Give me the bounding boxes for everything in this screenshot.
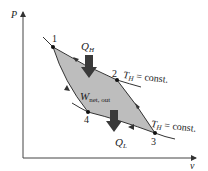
x-axis-label: v <box>190 160 195 171</box>
state-point-3 <box>153 131 157 135</box>
state-label-1: 1 <box>52 33 57 44</box>
state-point-1 <box>51 45 55 49</box>
state-label-3: 3 <box>151 136 156 147</box>
state-label-2: 2 <box>112 68 117 79</box>
carnot-pv-diagram: P v 1 2 3 4 QH QL Wnet, out TH = const. … <box>0 0 208 171</box>
lower-isotherm-label: TH = const. <box>151 118 197 136</box>
heat-out-label: QL <box>115 136 127 150</box>
y-axis-label: P <box>10 9 17 20</box>
direction-arrow-4-1 <box>64 85 70 91</box>
state-label-4: 4 <box>84 114 89 125</box>
heat-in-label: QH <box>81 40 95 54</box>
